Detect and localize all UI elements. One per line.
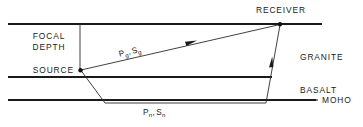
direct-ray-label-group: Pg,Sg <box>118 45 142 60</box>
focal-depth-label-line2: DEPTH <box>33 42 66 52</box>
seismic-ray-path-diagram: RECEIVER SOURCE FOCAL DEPTH GRANITE BASA… <box>0 0 363 127</box>
direct-ray-s-subscript: g <box>137 48 142 56</box>
direct-ray-path <box>81 25 280 71</box>
granite-layer-label: GRANITE <box>300 52 344 62</box>
receiver-point-marker <box>278 22 282 26</box>
diagram-canvas: RECEIVER SOURCE FOCAL DEPTH GRANITE BASA… <box>0 0 363 127</box>
focal-depth-label-line1: FOCAL <box>33 31 65 41</box>
refracted-ray-s-subscript: n <box>162 111 166 118</box>
refracted-ray-label-group: Pn,Sn <box>143 108 166 118</box>
refracted-ray-downgoing-leg <box>81 71 105 104</box>
basalt-layer-label: BASALT <box>300 85 337 95</box>
svg-text:Pg,Sg: Pg,Sg <box>118 45 142 60</box>
source-label: SOURCE <box>33 65 74 75</box>
receiver-label: RECEIVER <box>256 5 306 15</box>
refracted-ray-separator: , <box>152 108 155 117</box>
source-point-marker <box>78 68 82 72</box>
refracted-ray-arrowhead-icon <box>269 57 273 68</box>
svg-text:Pn,Sn: Pn,Sn <box>143 108 166 118</box>
moho-label: MOHO <box>322 95 352 105</box>
